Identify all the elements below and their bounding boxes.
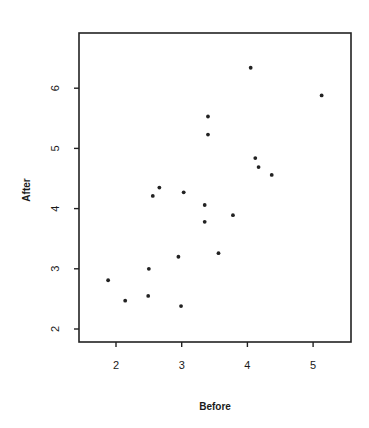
data-point xyxy=(249,66,253,70)
data-point xyxy=(206,115,210,119)
plot-border xyxy=(79,33,351,342)
x-tick-label: 5 xyxy=(310,359,316,371)
y-axis-label: After xyxy=(21,178,32,201)
plot-frame xyxy=(79,33,351,342)
data-point xyxy=(151,194,155,198)
x-tick-label: 3 xyxy=(179,359,185,371)
data-point xyxy=(147,267,151,271)
x-tick-label: 4 xyxy=(244,359,250,371)
scatter-plot: 2345 23456 Before After xyxy=(0,0,369,428)
y-axis: 23456 xyxy=(49,85,79,332)
data-point xyxy=(253,156,257,160)
data-point xyxy=(106,278,110,282)
y-tick-label: 6 xyxy=(49,85,61,91)
data-point xyxy=(217,251,221,255)
x-axis-label: Before xyxy=(199,401,231,412)
y-tick-label: 3 xyxy=(49,266,61,272)
data-point xyxy=(182,190,186,194)
data-point xyxy=(177,255,181,259)
data-point xyxy=(123,299,127,303)
data-points xyxy=(106,66,323,308)
x-axis: 2345 xyxy=(113,342,316,371)
data-point xyxy=(203,220,207,224)
data-point xyxy=(179,304,183,308)
data-point xyxy=(203,203,207,207)
y-tick-label: 2 xyxy=(49,326,61,332)
data-point xyxy=(270,173,274,177)
data-point xyxy=(157,186,161,190)
data-point xyxy=(206,133,210,137)
data-point xyxy=(146,294,150,298)
data-point xyxy=(257,165,261,169)
data-point xyxy=(320,94,324,98)
y-tick-label: 4 xyxy=(49,206,61,212)
data-point xyxy=(231,213,235,217)
y-tick-label: 5 xyxy=(49,145,61,151)
x-tick-label: 2 xyxy=(113,359,119,371)
